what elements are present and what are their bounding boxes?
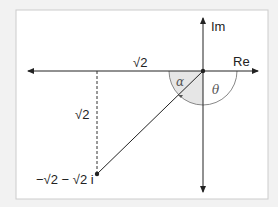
point-label: −√2 − √2 i [36,172,94,187]
theta-label: θ [212,83,220,97]
complex-plane-diagram: Im Re √2 √2 −√2 − √2 i α θ [0,0,278,207]
alpha-label: α [176,75,184,89]
vertical-length-label: √2 [75,107,89,122]
horizontal-length-label: √2 [133,55,147,70]
point-dot [95,172,99,176]
real-axis-label: Re [233,54,250,69]
origin-dot [201,69,205,73]
imag-axis-label: Im [211,19,225,34]
frame [16,10,268,199]
